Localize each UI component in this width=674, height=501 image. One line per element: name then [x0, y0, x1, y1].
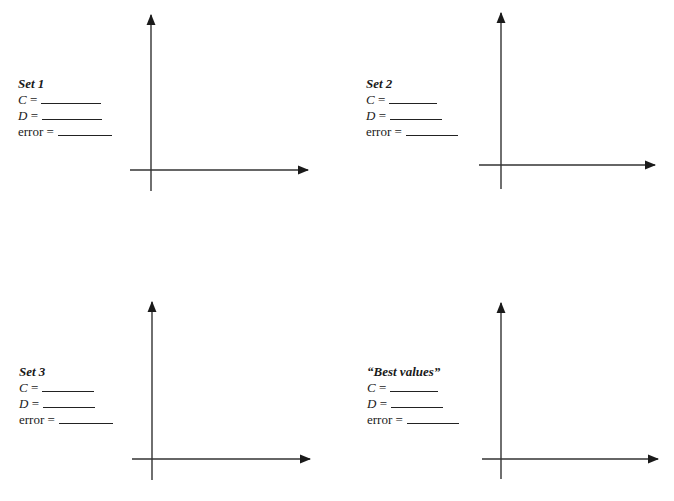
- axes-canvas: [0, 0, 674, 501]
